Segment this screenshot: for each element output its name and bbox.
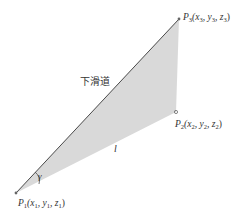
- glide-path-label: 下滑道: [80, 75, 110, 87]
- angle-gamma-label: γ: [38, 171, 42, 181]
- length-l-label: l: [114, 143, 117, 154]
- point-p1-label: P1(x1, y1, z1): [17, 198, 65, 209]
- point-p3-label: P3(x3, y3, z3): [182, 12, 230, 23]
- point-p1-marker: [15, 192, 18, 195]
- point-p2-label: P2(x2, y2, z2): [174, 119, 222, 130]
- glide-path-diagram: 下滑道 γ l P3(x3, y3, z3) P2(x2, y2, z2) P1…: [0, 0, 239, 217]
- point-p3-marker: [178, 18, 181, 21]
